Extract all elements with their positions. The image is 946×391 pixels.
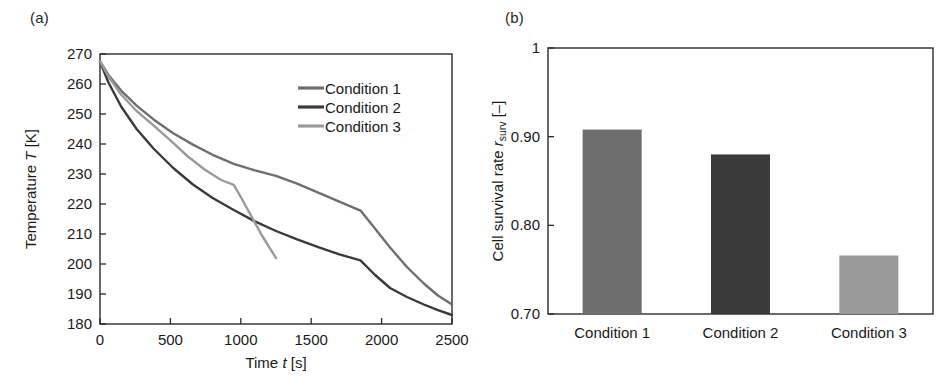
y-axis-title: Cell survival rate rsurv [–] xyxy=(489,101,508,262)
series-line-condition-3 xyxy=(100,62,276,259)
legend-label-condition-3: Condition 3 xyxy=(325,118,401,135)
panel-a-temperature-chart: (a) 180190200210220230240250260270050010… xyxy=(0,0,473,391)
x-tick-label: 1000 xyxy=(224,331,257,348)
panel-a-plot: 1801902002102202302402502602700500100015… xyxy=(0,0,473,391)
panel-a-label: (a) xyxy=(30,9,49,26)
x-tick-label: 500 xyxy=(158,331,183,348)
y-tick-label: 180 xyxy=(67,315,92,332)
x-axis-title: Time t [s] xyxy=(245,354,306,371)
panel-b-survival-chart: (b) 0.700.800.901Cell survival rate rsur… xyxy=(473,0,946,391)
panel-b-label: (b) xyxy=(505,9,524,26)
y-tick-label: 0.80 xyxy=(511,216,540,233)
x-tick-label: 1500 xyxy=(295,331,328,348)
bar-condition-2 xyxy=(711,154,770,314)
y-tick-label: 230 xyxy=(67,165,92,182)
y-tick-label: 0.90 xyxy=(511,128,540,145)
y-tick-label: 210 xyxy=(67,225,92,242)
figure-container: (a) 180190200210220230240250260270050010… xyxy=(0,0,946,391)
legend-label-condition-2: Condition 2 xyxy=(325,99,401,116)
category-label-condition-2: Condition 2 xyxy=(703,324,779,341)
category-label-condition-1: Condition 1 xyxy=(574,324,650,341)
y-tick-label: 220 xyxy=(67,195,92,212)
y-tick-label: 0.70 xyxy=(511,305,540,322)
x-tick-label: 0 xyxy=(96,331,104,348)
legend-label-condition-1: Condition 1 xyxy=(325,80,401,97)
bar-condition-1 xyxy=(583,130,642,314)
y-tick-label: 270 xyxy=(67,45,92,62)
y-tick-label: 200 xyxy=(67,255,92,272)
category-label-condition-3: Condition 3 xyxy=(831,324,907,341)
x-tick-label: 2500 xyxy=(435,331,468,348)
y-tick-label: 260 xyxy=(67,75,92,92)
bar-condition-3 xyxy=(839,255,898,314)
y-tick-label: 190 xyxy=(67,285,92,302)
y-tick-label: 1 xyxy=(532,39,540,56)
x-tick-label: 2000 xyxy=(365,331,398,348)
panel-b-plot: 0.700.800.901Cell survival rate rsurv [–… xyxy=(473,0,946,391)
y-tick-label: 240 xyxy=(67,135,92,152)
y-tick-label: 250 xyxy=(67,105,92,122)
y-axis-title: Temperature T [K] xyxy=(22,129,39,249)
